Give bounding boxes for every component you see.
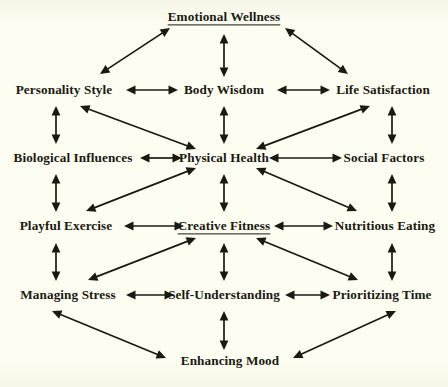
- node-enhancing-mood[interactable]: Enhancing Mood: [181, 354, 280, 367]
- arrow-creat-nutri: [274, 222, 333, 231]
- arrow-phys-pstyle: [80, 105, 196, 150]
- arrow-bio-playful: [52, 174, 61, 212]
- arrow-phys-social: [269, 154, 342, 163]
- arrow-playful-manage: [52, 243, 61, 281]
- arrow-creat-prior: [256, 238, 358, 281]
- arrow-phys-playful: [86, 167, 196, 211]
- arrow-bio-phys: [140, 154, 182, 163]
- arrow-phys-nutri: [256, 168, 357, 212]
- node-creative-fitness[interactable]: Creative Fitness: [178, 219, 271, 232]
- arrow-bwisdom-ewell: [220, 34, 229, 77]
- arrow-self-enhance: [220, 311, 229, 350]
- arrow-prior-enhance: [293, 311, 396, 358]
- arrow-bwisdom-phys: [220, 106, 229, 144]
- arrow-creat-self: [220, 243, 229, 281]
- arrow-playful-creat: [124, 222, 184, 231]
- arrow-manage-self: [126, 291, 174, 300]
- node-social-factors[interactable]: Social Factors: [344, 151, 425, 164]
- arrow-manage-enhance: [52, 311, 166, 359]
- node-managing-stress[interactable]: Managing Stress: [20, 288, 115, 301]
- node-life-satisfaction[interactable]: Life Satisfaction: [336, 83, 430, 96]
- node-personality-style[interactable]: Personality Style: [16, 83, 113, 96]
- arrow-pstyle-bio: [52, 106, 61, 144]
- node-self-understanding[interactable]: Self-Understanding: [168, 288, 280, 301]
- node-physical-health[interactable]: Physical Health: [179, 151, 269, 164]
- node-biological-influences[interactable]: Biological Influences: [14, 151, 133, 164]
- node-playful-exercise[interactable]: Playful Exercise: [20, 219, 113, 232]
- arrow-lsat-ewell: [285, 28, 348, 74]
- node-body-wisdom[interactable]: Body Wisdom: [184, 83, 264, 96]
- arrow-pstyle-ewell: [100, 28, 170, 74]
- arrow-self-prior: [285, 291, 330, 300]
- node-nutritious-eating[interactable]: Nutritious Eating: [335, 219, 435, 232]
- arrow-nutri-prior: [388, 243, 397, 281]
- node-emotional-wellness[interactable]: Emotional Wellness: [168, 10, 281, 23]
- arrow-lsat-social: [388, 106, 397, 144]
- arrow-bwisdom-lsat: [277, 86, 330, 95]
- arrow-pstyle-bwisdom: [126, 86, 178, 95]
- node-prioritizing-time[interactable]: Prioritizing Time: [332, 288, 431, 301]
- arrow-phys-creative: [220, 174, 229, 212]
- diagram-canvas: [0, 0, 448, 387]
- arrow-social-nutri: [388, 174, 397, 212]
- arrow-phys-lsat: [256, 105, 370, 150]
- arrow-creat-manage: [88, 237, 196, 280]
